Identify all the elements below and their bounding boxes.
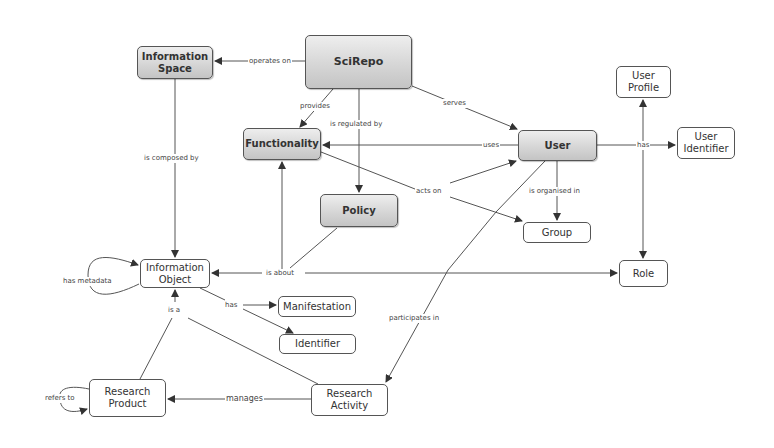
label-is-about: is about: [265, 269, 295, 278]
node-user-profile[interactable]: User Profile: [616, 66, 671, 98]
label-refers-to: refers to: [44, 394, 76, 403]
edge-is-about-policy: [290, 228, 337, 268]
node-label: SciRepo: [334, 56, 384, 68]
node-identifier[interactable]: Identifier: [279, 334, 356, 354]
label-has-metadata: has metadata: [62, 277, 113, 286]
node-information-space[interactable]: Information Space: [137, 46, 213, 79]
label-serves: serves: [442, 99, 467, 108]
label-participates-in: participates in: [388, 314, 440, 323]
label-uses: uses: [482, 141, 500, 150]
label-is-a: is a: [167, 306, 181, 315]
label-acts-on: acts on: [415, 187, 442, 196]
edge-acts-on: [321, 152, 415, 189]
label-manages: manages: [225, 394, 264, 403]
node-label: Functionality: [245, 138, 319, 150]
label-is-regulated-by: is regulated by: [329, 120, 383, 129]
edge-has-io: [200, 288, 225, 300]
node-group[interactable]: Group: [523, 222, 591, 243]
node-label: Policy: [342, 205, 376, 217]
label-is-composed-by: is composed by: [143, 154, 200, 163]
node-label: Research Product: [102, 386, 154, 410]
node-label: Group: [542, 227, 572, 239]
node-role[interactable]: Role: [619, 260, 668, 287]
node-research-activity[interactable]: Research Activity: [311, 384, 388, 416]
node-label: Information Space: [138, 51, 212, 75]
edge-is-a-product: [140, 318, 172, 379]
node-label: Research Activity: [324, 388, 376, 412]
node-label: Information Object: [145, 262, 205, 286]
label-is-organised-in: is organised in: [528, 187, 581, 196]
node-user[interactable]: User: [518, 130, 597, 161]
label-has-io: has: [224, 301, 238, 310]
node-information-object[interactable]: Information Object: [140, 259, 210, 288]
label-has-user: has: [636, 141, 650, 150]
node-label: User Profile: [624, 70, 664, 94]
node-label: Manifestation: [283, 301, 351, 313]
node-research-product[interactable]: Research Product: [89, 379, 166, 417]
edge-acts-on-user: [450, 161, 516, 183]
edge-participates-in: [386, 161, 545, 382]
node-label: Identifier: [295, 338, 340, 350]
node-label: User: [545, 140, 571, 152]
edge-has-metadata: [88, 257, 139, 294]
node-user-identifier[interactable]: User Identifier: [677, 127, 735, 159]
label-operates-on: operates on: [248, 57, 292, 66]
node-label: User Identifier: [681, 131, 731, 155]
node-policy[interactable]: Policy: [320, 194, 398, 227]
node-functionality[interactable]: Functionality: [243, 128, 321, 160]
label-provides: provides: [299, 102, 331, 111]
node-manifestation[interactable]: Manifestation: [278, 296, 356, 317]
edge-acts-on-group: [450, 197, 522, 221]
node-label: Role: [633, 268, 655, 280]
node-scirepo[interactable]: SciRepo: [305, 35, 412, 89]
